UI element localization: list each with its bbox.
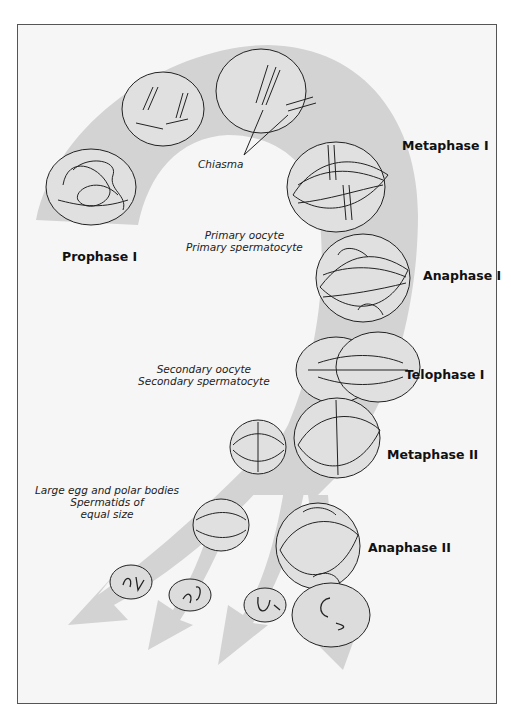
stage-label-metaphase-ii: Metaphase II [387, 447, 478, 462]
secondary-spermatocyte-text: Secondary spermatocyte [138, 375, 270, 387]
large-egg-text: Large egg and polar bodies [35, 484, 179, 496]
stage-label-prophase-i: Prophase I [62, 249, 137, 264]
primary-spermatocyte-text: Primary spermatocyte [186, 241, 303, 253]
stage-label-anaphase-ii: Anaphase II [368, 540, 451, 555]
secondary-oocyte-text: Secondary oocyte [138, 363, 270, 375]
stage-label-telophase-i: Telophase I [405, 367, 484, 382]
chiasma-label: Chiasma [198, 158, 243, 170]
product-cell-3 [244, 588, 286, 622]
anaphase-i-cell [316, 234, 410, 322]
products-label: Large egg and polar bodies Spermatids of… [35, 484, 179, 520]
equal-size-text: equal size [35, 508, 179, 520]
primary-oocyte-text: Primary oocyte [186, 229, 303, 241]
product-cell-4-egg [292, 583, 370, 647]
meiosis-diagram: Prophase I Metaphase I Anaphase I Teloph… [17, 24, 497, 704]
leptotene-cell [122, 72, 204, 146]
stage-label-anaphase-i: Anaphase I [423, 268, 501, 283]
secondary-cell-label: Secondary oocyte Secondary spermatocyte [138, 363, 270, 387]
stage-label-metaphase-i: Metaphase I [402, 138, 489, 153]
spermatids-text: Spermatids of [35, 496, 179, 508]
primary-cell-label: Primary oocyte Primary spermatocyte [186, 229, 303, 253]
prophase-cell [46, 149, 136, 225]
telophase-i-cell [296, 332, 420, 403]
